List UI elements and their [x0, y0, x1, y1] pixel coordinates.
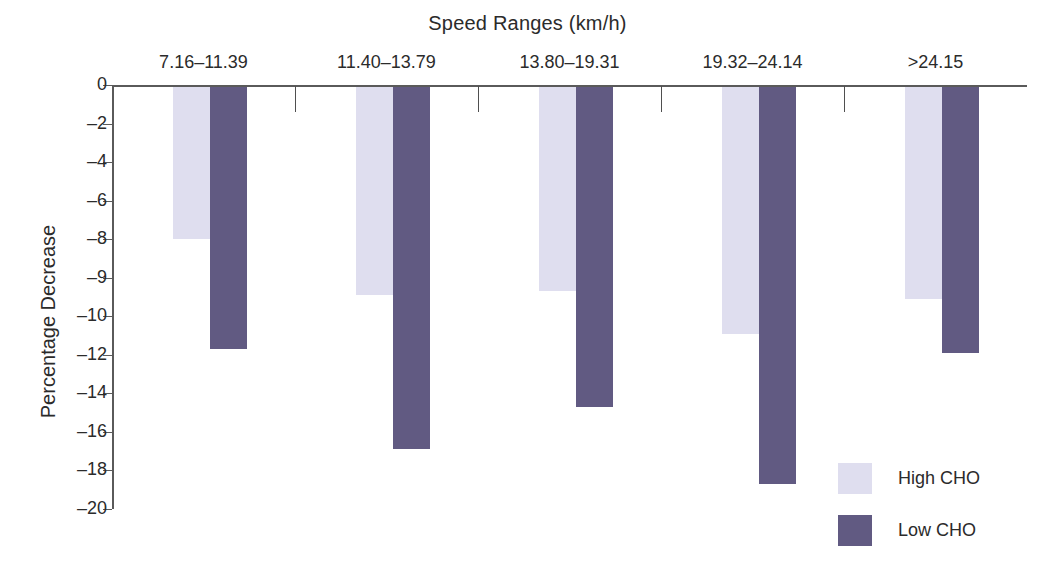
y-axis-line: [112, 85, 114, 509]
bar-chart: Speed Ranges (km/h) Percentage Decrease …: [0, 0, 1055, 566]
group-separator-tick: [844, 86, 845, 112]
bar-high-cho: [905, 87, 942, 299]
y-tick-label: –20: [77, 498, 107, 519]
y-tick-label: –9: [87, 267, 107, 288]
y-tick-label: –14: [77, 382, 107, 403]
y-tick-label: –12: [77, 344, 107, 365]
chart-legend: High CHO Low CHO: [838, 452, 1048, 556]
plot-area: 0–2–4–6–8–9–10–12–14–16–18–20 7.16–11.39…: [112, 85, 1027, 509]
legend-swatch-low-cho: [838, 515, 872, 546]
y-tick-label: –2: [87, 113, 107, 134]
legend-item-low-cho: Low CHO: [838, 504, 1048, 556]
group-separator-tick: [661, 86, 662, 112]
bar-high-cho: [539, 87, 576, 291]
x-category-label: 19.32–24.14: [702, 52, 802, 73]
x-category-label: 13.80–19.31: [519, 52, 619, 73]
y-axis-title: Percentage Decrease: [37, 192, 60, 452]
y-tick-label: –18: [77, 459, 107, 480]
bar-low-cho: [210, 87, 247, 349]
x-category-label: 11.40–13.79: [337, 52, 436, 73]
y-tick-label: –6: [87, 190, 107, 211]
legend-swatch-high-cho: [838, 463, 872, 494]
bar-low-cho: [576, 87, 613, 407]
bar-high-cho: [173, 87, 210, 239]
y-tick-label: –10: [77, 305, 107, 326]
bar-low-cho: [759, 87, 796, 484]
bar-low-cho: [393, 87, 430, 449]
bar-high-cho: [722, 87, 759, 334]
legend-label-high-cho: High CHO: [898, 468, 980, 489]
group-separator-tick: [295, 86, 296, 112]
group-separator-tick: [478, 86, 479, 112]
x-category-label: >24.15: [908, 52, 964, 73]
y-tick-label: 0: [97, 74, 107, 95]
bar-low-cho: [942, 87, 979, 353]
x-category-label: 7.16–11.39: [159, 52, 248, 73]
y-tick-label: –4: [87, 151, 107, 172]
legend-item-high-cho: High CHO: [838, 452, 1048, 504]
y-tick-label: –8: [87, 228, 107, 249]
y-tick-label: –16: [77, 421, 107, 442]
chart-top-axis-title: Speed Ranges (km/h): [0, 12, 1055, 35]
legend-label-low-cho: Low CHO: [898, 520, 976, 541]
bar-high-cho: [356, 87, 393, 295]
